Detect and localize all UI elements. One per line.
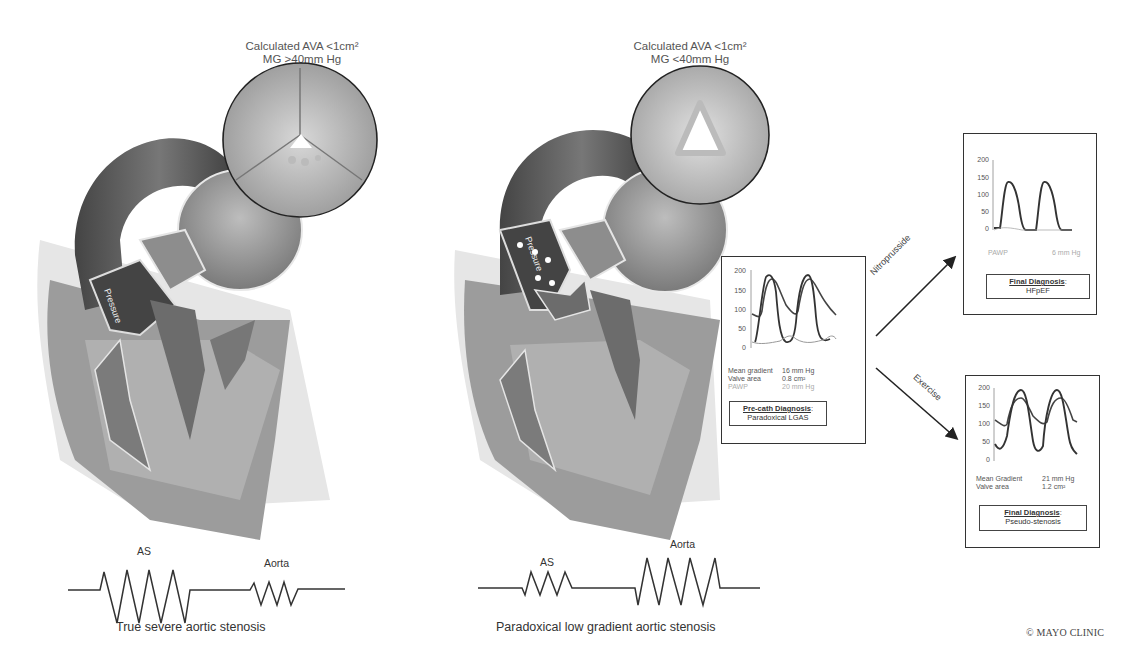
exercise-diagnosis-box: Final Diagnosis: Pseudo-stenosis (979, 505, 1087, 531)
nitroprusside-box: 200 150 100 50 0 PAWP6 mm Hg Final Diagn… (963, 133, 1097, 315)
waveform2-as-label: AS (540, 556, 554, 568)
precath-diagnosis-value: Paradoxical LGAS (730, 413, 826, 422)
precath-row-pawp: PAWP20 mm Hg (728, 383, 814, 391)
panel2-title: Paradoxical low gradient aortic stenosis (496, 620, 716, 634)
arrows (870, 240, 970, 460)
waveform1-aorta-label: Aorta (264, 557, 289, 569)
exercise-diagnosis-title: Final Diagnosis (1004, 508, 1059, 517)
valve-magnifier-paradoxical (620, 55, 780, 215)
exercise-row-valve-area: Valve area1.2 cm² (976, 483, 1065, 491)
waveform2-aorta-label: Aorta (670, 538, 695, 550)
nitroprusside-pressure-chart (992, 158, 1097, 243)
precath-row-valve-area: Valve area0.8 cm² (728, 375, 805, 383)
panel1-title: True severe aortic stenosis (116, 620, 266, 634)
nitro-diagnosis-box: Final Diagnosis: HFpEF (986, 274, 1090, 299)
exercise-diagnosis-value: Pseudo-stenosis (980, 517, 1086, 526)
precath-row-mean-gradient: Mean gradient16 mm Hg (728, 367, 814, 375)
waveform1-as-label: AS (137, 545, 151, 557)
nitro-diagnosis-value: HFpEF (987, 286, 1089, 295)
copyright-label: © MAYO CLINIC (1026, 627, 1104, 638)
exercise-pressure-chart (993, 386, 1098, 471)
precath-box: 200 150 100 50 0 Mean gradient16 mm Hg V… (721, 256, 866, 444)
nitro-row-pawp: PAWP6 mm Hg (988, 249, 1092, 257)
exercise-box: 200 150 100 50 0 Mean Gradient21 mm Hg V… (965, 375, 1100, 548)
precath-pressure-chart (750, 267, 865, 357)
nitroprusside-arrow (876, 258, 954, 336)
nitro-diagnosis-title: Final Diagnosis (1009, 277, 1064, 286)
precath-diagnosis-title: Pre-cath Diagnosis (743, 404, 811, 413)
waveform-true-severe (60, 555, 360, 625)
exercise-row-mean-gradient: Mean Gradient21 mm Hg (976, 475, 1074, 483)
precath-diagnosis-box: Pre-cath Diagnosis: Paradoxical LGAS (729, 401, 827, 426)
heart-illustration-true-severe: Pressure (0, 40, 450, 520)
